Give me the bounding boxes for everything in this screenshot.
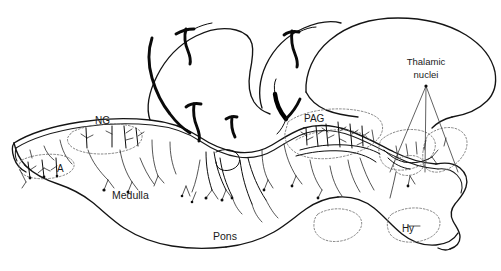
label-thalamic-nuclei-line2: nuclei	[414, 69, 439, 80]
axon-plexus-9	[192, 192, 196, 202]
fiber-tract-left-peduncle	[149, 38, 190, 133]
axon-plexus-1	[206, 152, 212, 190]
axon-thal-5	[416, 142, 417, 154]
fiber-tract-right-hook	[292, 31, 298, 67]
axon-pons-2	[264, 180, 273, 190]
axon-left-2	[44, 146, 54, 160]
bouton	[43, 176, 46, 179]
unlabeled-nucleus-outline	[314, 209, 362, 242]
anatomy-drawing: Thalamic nuclei PAG NG A Medulla Pons Hy	[0, 0, 501, 271]
axon-ng-4	[106, 131, 112, 134]
right-undulating-border	[436, 163, 467, 249]
fiber-tract-group	[149, 23, 316, 141]
bouton	[191, 201, 194, 204]
axon-pons-3	[284, 144, 296, 176]
thalamic-leader-line-1	[390, 86, 426, 172]
bouton	[205, 197, 208, 200]
thalamic-nucleus-outline-right	[423, 128, 467, 173]
axon-pag-3	[316, 126, 318, 146]
thalamic-leader-line-2	[425, 86, 426, 172]
bouton	[263, 189, 266, 192]
axon-thal-11	[390, 172, 396, 198]
axon-right-2	[348, 160, 360, 192]
right-border-group	[436, 163, 467, 250]
bouton	[407, 185, 410, 188]
right-border-inner	[438, 169, 462, 193]
bouton	[102, 188, 105, 191]
cortex-outline	[306, 18, 496, 117]
axon-pons-7	[330, 166, 342, 196]
label-pons: Pons	[213, 230, 237, 242]
axon-left-1	[60, 140, 72, 164]
bouton	[181, 195, 184, 198]
bouton	[291, 185, 294, 188]
axon-medulla-8	[140, 158, 154, 184]
fiber-tract-left-hook	[185, 29, 190, 64]
axon-ng-7	[136, 128, 138, 146]
axon-medulla-3	[120, 150, 132, 182]
axon-plexus-8	[182, 186, 190, 196]
axon-right-1	[360, 158, 374, 190]
pons-ventral-outline	[226, 197, 338, 247]
thalamic-leader-origin-dot	[424, 84, 427, 87]
axon-thal-2	[388, 158, 410, 169]
bouton	[317, 197, 320, 200]
bouton	[56, 175, 59, 178]
label-medulla: Medulla	[112, 189, 149, 201]
right-lower-tip	[438, 248, 450, 250]
pag-nucleus-outline	[285, 109, 383, 159]
axon-pag-6	[322, 128, 334, 138]
fiber-tract-small-hook	[232, 117, 235, 137]
axon-ng-2	[81, 134, 93, 138]
axon-medulla-5	[152, 140, 158, 176]
label-a: A	[57, 163, 64, 174]
axon-plexus-3	[206, 190, 218, 199]
axon-thal-4	[406, 144, 408, 156]
label-hy: Hy	[402, 223, 414, 234]
cerebellum-outline-group	[148, 22, 341, 120]
axon-loop	[216, 150, 240, 171]
axon-pag-1	[306, 128, 307, 145]
bouton	[231, 197, 234, 200]
cerebellum-right-lobe-outline	[260, 22, 341, 108]
axon-plexus-7	[192, 160, 200, 192]
axon-arborization-group	[20, 122, 446, 226]
brainstem-dorsal-outline	[14, 119, 304, 153]
axon-pag-7	[338, 122, 340, 147]
cortex-outline-group	[306, 18, 496, 128]
label-pag: PAG	[304, 113, 325, 124]
fiber-tract-heavy-bundle-upper	[274, 79, 276, 94]
cortex-lower-right-edge	[432, 117, 452, 128]
brainstem-dorsal-inner-line	[16, 124, 438, 169]
brain-section-figure: Thalamic nuclei PAG NG A Medulla Pons Hy	[0, 0, 501, 271]
fiber-tract-heavy-bundle-tail	[277, 119, 286, 134]
axon-medulla-6	[154, 176, 164, 186]
axon-a-4	[38, 168, 50, 173]
bouton	[221, 199, 224, 202]
axon-descend-3	[252, 204, 262, 222]
label-thalamic-nuclei-line1: Thalamic	[407, 56, 446, 67]
axon-pag-13	[372, 130, 374, 142]
axon-ng-6	[126, 129, 133, 140]
axon-pag-trunk-2	[296, 151, 376, 162]
axon-plexus-6	[232, 196, 242, 214]
label-ng: NG	[95, 115, 110, 126]
axon-pons-4	[292, 176, 302, 186]
axon-thal-10	[408, 176, 415, 186]
axon-plexus-4	[222, 190, 232, 200]
fiber-tract-heavy-bundle	[275, 94, 286, 119]
thalamic-leader-line-3	[426, 86, 458, 172]
bouton	[29, 177, 32, 180]
axon-descend-4	[266, 200, 278, 218]
axon-pons-5	[310, 160, 322, 190]
fiber-tract-left-hook-tail	[194, 23, 212, 29]
axon-medulla-1	[88, 150, 108, 180]
axon-pag-5	[326, 124, 328, 146]
axon-medulla-7	[170, 142, 176, 174]
axon-ng-5	[124, 126, 126, 148]
axon-thal-7	[432, 150, 438, 164]
cerebellum-outline	[148, 29, 270, 120]
axon-a-7	[20, 170, 26, 188]
